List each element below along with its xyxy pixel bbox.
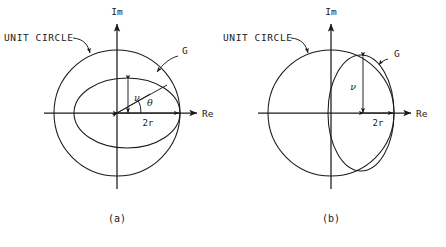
dim-nu-label-b: ν	[350, 81, 356, 92]
imaginary-axis-label-b: Im	[325, 6, 337, 17]
panel-caption-b: (b)	[322, 213, 340, 224]
unit-circle-leader-b	[291, 38, 308, 53]
dim-2r-label-b: 2r	[373, 118, 384, 128]
curve-g-leader-a	[157, 56, 178, 72]
imaginary-axis-label-a: Im	[111, 6, 123, 17]
curve-g-label-b: G	[394, 48, 400, 59]
unit-circle-label-b: UNIT CIRCLE	[223, 32, 293, 43]
panel-caption-a: (a)	[108, 213, 126, 224]
panel-a: Im Re UNIT CIRCLE G ν θ 2r (a)	[4, 6, 214, 224]
curve-g-label-a: G	[182, 45, 188, 56]
angle-theta-label-a: θ	[147, 97, 153, 108]
unit-circle-label-a: UNIT CIRCLE	[4, 32, 74, 43]
unit-circle-leader-a	[73, 38, 90, 53]
panel-b: Im Re UNIT CIRCLE G ν 2r (b)	[223, 6, 428, 224]
curve-g-leader-b	[379, 59, 388, 65]
diagram-svg: Im Re UNIT CIRCLE G ν θ 2r (a)	[0, 0, 446, 247]
dim-2r-label-a: 2r	[143, 118, 154, 128]
real-axis-label-b: Re	[416, 108, 428, 119]
figure-canvas: Im Re UNIT CIRCLE G ν θ 2r (a)	[0, 0, 446, 247]
real-axis-label-a: Re	[202, 108, 214, 119]
